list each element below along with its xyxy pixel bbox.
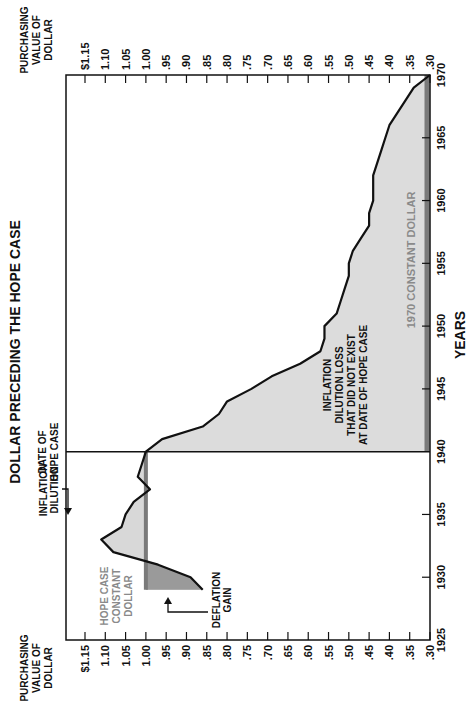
- svg-text:DOLLAR: DOLLAR: [43, 646, 54, 688]
- year-tick-label: 1925: [435, 628, 447, 652]
- value-tick-label-bottom: .75: [241, 645, 253, 660]
- svg-text:THAT DID NOT EXIST: THAT DID NOT EXIST: [346, 334, 357, 435]
- hope-case-constant-dollar-label: HOPE CASE CONSTANT DOLLAR: [99, 566, 134, 625]
- svg-text:DOLLAR: DOLLAR: [123, 574, 134, 616]
- chart-title: DOLLAR PRECEDING THE HOPE CASE: [7, 220, 23, 484]
- value-tick-label-top: 1.00: [140, 49, 152, 70]
- value-tick-label-top: .80: [221, 55, 233, 70]
- svg-text:GAIN: GAIN: [222, 588, 233, 613]
- deflation-gain-area: [146, 561, 203, 590]
- svg-text:DILUTION LOSS: DILUTION LOSS: [334, 346, 345, 424]
- value-tick-label-top: .40: [383, 55, 395, 70]
- value-tick-label-bottom: .65: [282, 645, 294, 660]
- value-tick-label-top: .50: [343, 55, 355, 70]
- svg-text:DILUTION: DILUTION: [49, 466, 60, 513]
- year-tick-label: 1940: [435, 439, 447, 463]
- value-tick-label-top: .60: [302, 55, 314, 70]
- value-tick-label-top: .90: [180, 55, 192, 70]
- value-tick-label-top: .95: [160, 55, 172, 70]
- value-tick-label-bottom: .55: [323, 645, 335, 660]
- value-tick-label-bottom: .60: [302, 645, 314, 660]
- value-tick-label-top: 1.10: [99, 49, 111, 70]
- x-axis-label: YEARS: [452, 311, 468, 359]
- svg-text:INFLATION: INFLATION: [38, 464, 49, 517]
- year-tick-label: 1950: [435, 314, 447, 338]
- svg-text:DOLLAR: DOLLAR: [43, 18, 54, 60]
- value-tick-label-top: .55: [323, 55, 335, 70]
- svg-text:PURCHASING: PURCHASING: [19, 634, 30, 701]
- purchasing-value-chart: $1.15$1.151.101.101.051.051.001.00.95.95…: [0, 0, 471, 704]
- value-tick-label-bottom: .40: [383, 645, 395, 660]
- inflation-dilution-label: INFLATION DILUTION: [38, 464, 60, 517]
- svg-text:VALUE OF: VALUE OF: [31, 15, 42, 65]
- svg-text:PURCHASING: PURCHASING: [19, 6, 30, 73]
- deflation-gain-arrow: [168, 602, 208, 612]
- y-axis-label-bottom: PURCHASING VALUE OF DOLLAR: [19, 634, 54, 701]
- value-tick-label-top: .75: [241, 55, 253, 70]
- value-tick-label-bottom: .85: [201, 645, 213, 660]
- svg-text:INFLATION: INFLATION: [322, 359, 333, 412]
- value-tick-label-bottom: .95: [160, 645, 172, 660]
- svg-text:AT DATE OF HOPE CASE: AT DATE OF HOPE CASE: [358, 325, 369, 446]
- value-tick-label-bottom: .50: [343, 645, 355, 660]
- year-tick-label: 1955: [435, 251, 447, 275]
- deflation-gain-label: DEFLATION GAIN: [211, 572, 233, 628]
- value-tick-label-bottom: .80: [221, 645, 233, 660]
- value-tick-label-top: .85: [201, 55, 213, 70]
- value-tick-label-top: $1.15: [79, 42, 91, 70]
- inflation-dilution-arrowhead: [64, 508, 72, 515]
- svg-text:DEFLATION: DEFLATION: [211, 572, 222, 628]
- year-tick-label: 1965: [435, 126, 447, 150]
- value-tick-label-bottom: .45: [363, 645, 375, 660]
- value-tick-label-bottom: $1.15: [79, 645, 91, 673]
- value-tick-label-bottom: .70: [262, 645, 274, 660]
- inflation-dilution-arrow: [62, 489, 68, 510]
- year-tick-label: 1935: [435, 502, 447, 526]
- 1970-constant-dollar-label: 1970 CONSTANT DOLLAR: [405, 192, 417, 329]
- y-axis-label-top: PURCHASING VALUE OF DOLLAR: [19, 6, 54, 73]
- value-tick-label-top: .65: [282, 55, 294, 70]
- svg-text:VALUE OF: VALUE OF: [31, 643, 42, 693]
- year-tick-label: 1970: [435, 63, 447, 87]
- value-tick-label-top: .45: [363, 55, 375, 70]
- value-tick-label-top: .70: [262, 55, 274, 70]
- value-tick-label-top: .35: [404, 55, 416, 70]
- svg-text:HOPE CASE: HOPE CASE: [99, 566, 110, 625]
- svg-text:CONSTANT: CONSTANT: [111, 569, 122, 624]
- deflation-gain-arrowhead: [164, 597, 172, 604]
- value-tick-label-bottom: .90: [180, 645, 192, 660]
- value-tick-label-bottom: .35: [404, 645, 416, 660]
- year-tick-label: 1945: [435, 377, 447, 401]
- value-tick-label-bottom: 1.00: [140, 645, 152, 666]
- year-tick-label: 1930: [435, 565, 447, 589]
- value-tick-label-top: 1.05: [120, 49, 132, 70]
- year-tick-label: 1960: [435, 188, 447, 212]
- value-tick-label-bottom: 1.10: [99, 645, 111, 666]
- value-tick-label-bottom: 1.05: [120, 645, 132, 666]
